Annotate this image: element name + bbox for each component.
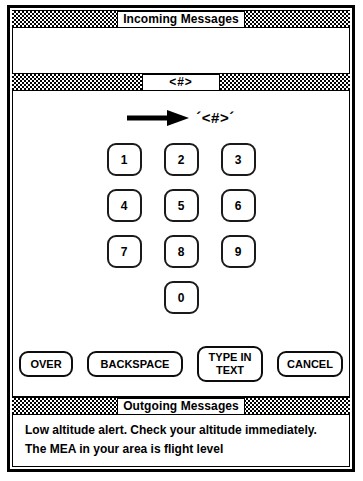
keypad-row: 4 5 6 xyxy=(13,189,349,222)
action-button-row: OVER BACKSPACE TYPE IN TEXT CANCEL xyxy=(19,346,343,382)
incoming-messages-panel xyxy=(12,28,350,73)
key-7[interactable]: 7 xyxy=(107,235,142,268)
key-5[interactable]: 5 xyxy=(164,189,199,222)
incoming-messages-title: Incoming Messages xyxy=(117,11,245,28)
entry-value-display: ´<#>´ xyxy=(196,109,234,127)
over-button[interactable]: OVER xyxy=(19,351,73,377)
key-2[interactable]: 2 xyxy=(164,143,199,176)
key-1[interactable]: 1 xyxy=(107,143,142,176)
key-0[interactable]: 0 xyxy=(164,281,199,314)
key-8[interactable]: 8 xyxy=(164,235,199,268)
keypad-panel: ´<#>´ 1 2 3 4 5 6 7 8 xyxy=(12,91,350,397)
entry-row: ´<#>´ xyxy=(13,107,349,129)
outgoing-messages-panel: Low altitude alert. Check your altitude … xyxy=(12,415,350,467)
entry-field-title: <#> xyxy=(142,74,220,91)
window-frame: Incoming Messages <#> ´<#>´ xyxy=(7,5,355,472)
key-9[interactable]: 9 xyxy=(221,235,256,268)
type-in-text-button[interactable]: TYPE IN TEXT xyxy=(197,346,263,382)
outgoing-messages-text: Low altitude alert. Check your altitude … xyxy=(13,415,349,465)
keypad-row: 7 8 9 xyxy=(13,235,349,268)
keypad-row: 1 2 3 xyxy=(13,143,349,176)
outgoing-messages-title: Outgoing Messages xyxy=(117,398,245,415)
entry-field-titlebar: <#> xyxy=(12,73,350,91)
right-arrow-icon xyxy=(127,109,189,127)
dialog-screen: Incoming Messages <#> ´<#>´ xyxy=(0,0,363,481)
numeric-keypad: 1 2 3 4 5 6 7 8 9 0 xyxy=(13,143,349,327)
incoming-messages-titlebar: Incoming Messages xyxy=(12,10,350,28)
incoming-messages-text xyxy=(13,28,349,36)
keypad-row: 0 xyxy=(13,281,349,314)
key-6[interactable]: 6 xyxy=(221,189,256,222)
outgoing-messages-titlebar: Outgoing Messages xyxy=(12,397,350,415)
window-frame-inner: Incoming Messages <#> ´<#>´ xyxy=(10,8,352,469)
backspace-button[interactable]: BACKSPACE xyxy=(87,351,183,377)
key-4[interactable]: 4 xyxy=(107,189,142,222)
key-3[interactable]: 3 xyxy=(221,143,256,176)
cancel-button[interactable]: CANCEL xyxy=(277,351,343,377)
